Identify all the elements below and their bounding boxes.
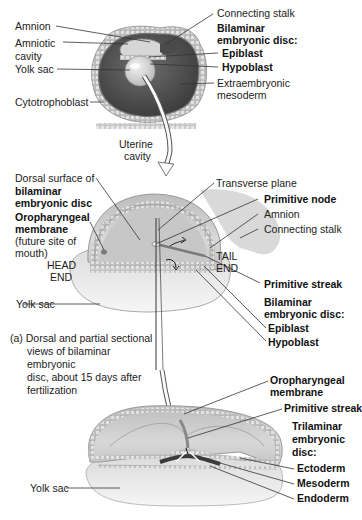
label-yolk-sac-mid: Yolk sac (16, 298, 55, 311)
label-trilaminar-2: embryonic (292, 433, 345, 446)
label-tail-end-2: END (216, 262, 238, 275)
label-bilaminar-mid-1: Bilaminar (264, 296, 312, 309)
label-connecting-stalk-top: Connecting stalk (217, 7, 295, 20)
label-endoderm: Endoderm (297, 492, 349, 505)
label-bilaminar-top-2: embryonic disc: (217, 34, 298, 47)
caption-line-1: (a) Dorsal and partial sectional (10, 332, 160, 345)
label-connecting-stalk-mid: Connecting stalk (264, 223, 342, 236)
label-hypoblast-top: Hypoblast (222, 61, 273, 74)
label-oropharyngeal-bottom-1: Oropharyngeal (270, 374, 345, 387)
label-future-mouth-1: (future site of (15, 235, 76, 248)
label-extraembryonic-1: Extraembryonic (217, 77, 290, 90)
label-head-end-1: HEAD (47, 259, 76, 272)
label-primitive-node: Primitive node (264, 193, 336, 206)
label-tail-end-1: TAIL (216, 250, 237, 263)
trilaminar-disc-illustration (86, 406, 282, 506)
label-extraembryonic-2: mesoderm (217, 89, 267, 102)
label-oropharyngeal-bottom-2: membrane (270, 386, 323, 399)
label-transverse-plane: Transverse plane (216, 177, 297, 190)
caption-line-2: views of bilaminar embryonic (10, 345, 160, 371)
label-mesoderm: Mesoderm (297, 477, 350, 490)
label-epiblast-top: Epiblast (222, 47, 263, 60)
label-bilaminar-top-1: Bilaminar (217, 22, 265, 35)
label-yolk-sac-bottom: Yolk sac (30, 482, 69, 495)
label-epiblast-mid: Epiblast (268, 322, 309, 335)
label-oropharyngeal-mid-1: Oropharyngeal (15, 211, 90, 224)
caption-line-3: disc, about 15 days after (10, 371, 160, 384)
label-uterine-2: cavity (124, 150, 151, 163)
panel-a-caption: (a) Dorsal and partial sectional views o… (10, 332, 160, 397)
label-bilaminar-mid-2: embryonic disc: (264, 308, 345, 321)
label-amnion-mid: Amnion (264, 208, 300, 221)
label-oropharyngeal-mid-2: membrane (15, 223, 68, 236)
label-primitive-streak-bottom: Primitive streak (284, 402, 362, 415)
label-dorsal-surface: Dorsal surface of (15, 172, 94, 185)
label-dorsal-embryonic-disc: embryonic disc (15, 197, 92, 210)
label-amniotic-cavity: Amniotic cavity (15, 37, 63, 62)
label-yolk-sac-top: Yolk sac (15, 63, 54, 76)
label-trilaminar-3: disc: (292, 446, 317, 459)
label-amnion-top: Amnion (15, 20, 51, 33)
label-head-end-2: END (50, 271, 72, 284)
label-future-mouth-2: mouth) (15, 247, 48, 260)
label-primitive-streak-mid: Primitive streak (264, 278, 342, 291)
label-ectoderm: Ectoderm (297, 462, 345, 475)
caption-line-4: fertilization (10, 384, 160, 397)
label-dorsal-bilaminar: bilaminar (15, 185, 62, 198)
label-uterine-1: Uterine (119, 138, 153, 151)
label-trilaminar-1: Trilaminar (292, 420, 342, 433)
label-hypoblast-mid: Hypoblast (268, 336, 319, 349)
label-cytotrophoblast: Cytotrophoblast (15, 96, 89, 109)
